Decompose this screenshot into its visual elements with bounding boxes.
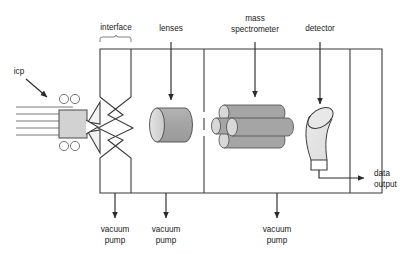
label-vacuum-pump-3-line2: pump bbox=[267, 236, 288, 245]
skimmer-cone bbox=[88, 130, 100, 153]
quadrupole-mass-spectrometer bbox=[212, 104, 294, 150]
diagram-canvas: icp interface lenses mass spectrometer d… bbox=[0, 0, 413, 254]
label-mass-spectrometer-line2: spectrometer bbox=[231, 25, 279, 34]
icpms-diagram: icp interface lenses mass spectrometer d… bbox=[0, 0, 413, 254]
label-vacuum-pump-1-line1: vacuum bbox=[101, 225, 130, 234]
sampler-cone bbox=[88, 102, 100, 124]
electron-multiplier-detector bbox=[304, 103, 337, 170]
ion-lens bbox=[150, 108, 193, 142]
label-mass-spectrometer-line1: mass bbox=[245, 14, 265, 23]
label-icp: icp bbox=[14, 67, 25, 76]
label-vacuum-pump-2-line1: vacuum bbox=[152, 225, 181, 234]
interface-brace bbox=[100, 35, 131, 42]
label-data-output-line1: data bbox=[374, 169, 390, 178]
label-data-output-line2: output bbox=[374, 180, 397, 189]
data-output-path bbox=[319, 170, 364, 178]
label-lenses: lenses bbox=[159, 24, 183, 33]
torch-body bbox=[59, 110, 87, 138]
label-vacuum-pump-1-line2: pump bbox=[105, 236, 126, 245]
label-detector: detector bbox=[305, 24, 335, 33]
label-vacuum-pump-3-line1: vacuum bbox=[263, 225, 292, 234]
icp-leader-arrow bbox=[26, 79, 47, 97]
label-vacuum-pump-2-line2: pump bbox=[156, 236, 177, 245]
icp-torch-assembly bbox=[16, 94, 87, 150]
label-interface: interface bbox=[100, 23, 132, 32]
